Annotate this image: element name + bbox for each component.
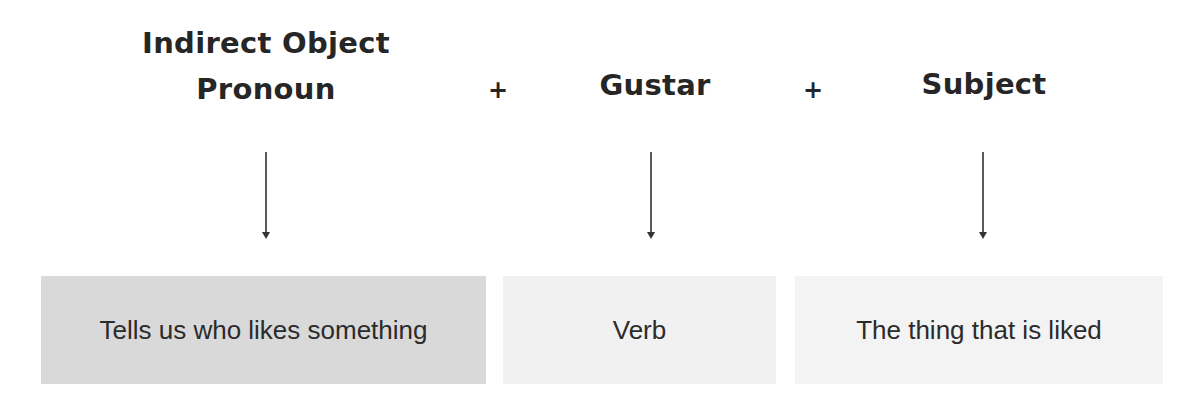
heading-gustar: Gustar (555, 64, 755, 106)
heading-line-1: Gustar (555, 64, 755, 106)
plus-operator-1: + (483, 76, 513, 104)
description-box-indirect-object: Tells us who likes something (41, 276, 486, 384)
plus-operator-2: + (798, 76, 828, 104)
description-box-subject: The thing that is liked (795, 276, 1163, 384)
heading-subject: Subject (884, 63, 1084, 105)
down-arrow-icon (260, 152, 272, 240)
heading-indirect-object-pronoun: Indirect Object Pronoun (96, 22, 436, 110)
down-arrow-icon (977, 152, 989, 240)
description-box-verb: Verb (503, 276, 776, 384)
description-text: Verb (613, 315, 667, 346)
heading-line-1: Indirect Object (96, 22, 436, 64)
description-text: The thing that is liked (856, 315, 1102, 346)
down-arrow-icon (645, 152, 657, 240)
description-text: Tells us who likes something (99, 315, 427, 346)
heading-line-1: Subject (884, 63, 1084, 105)
heading-line-2: Pronoun (96, 68, 436, 110)
